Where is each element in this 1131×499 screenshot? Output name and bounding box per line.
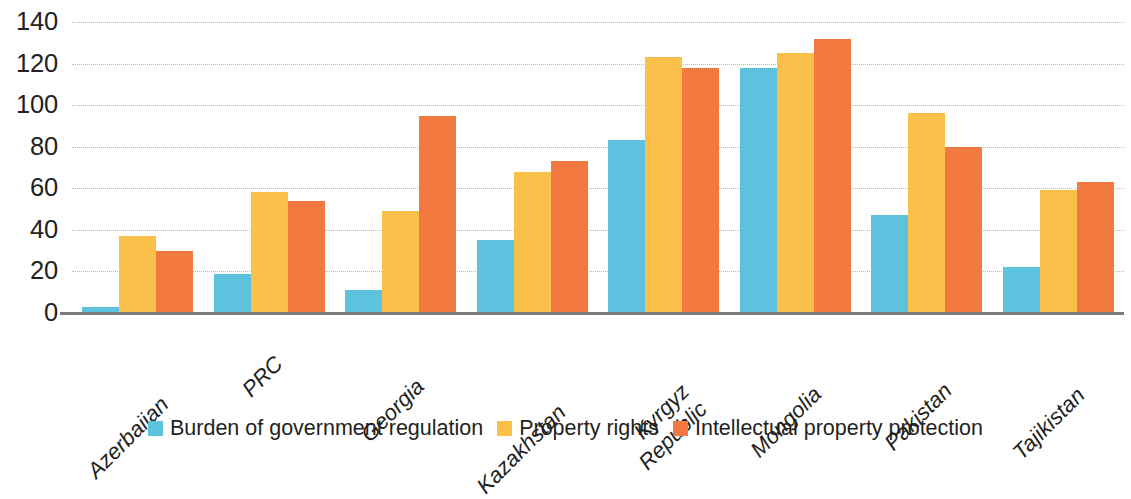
y-axis-tick-label: 20 <box>30 259 58 285</box>
legend-item[interactable]: Intellectual property protection <box>673 418 983 440</box>
bar <box>119 236 156 313</box>
bar-group <box>72 22 204 313</box>
bar <box>814 39 851 313</box>
y-axis-tick-label: 80 <box>30 134 58 160</box>
x-axis-label-cell: Kyrgyz Republic <box>598 313 730 413</box>
bar <box>419 116 456 313</box>
bar <box>251 192 288 313</box>
x-axis-label: Tajikistan <box>1073 319 1131 401</box>
y-axis: 020406080100120140 <box>0 0 66 340</box>
bar-group <box>730 22 862 313</box>
bar <box>908 113 945 313</box>
bar <box>608 140 645 313</box>
legend-item[interactable]: Burden of government regulation <box>148 418 483 440</box>
y-axis-tick-label: 140 <box>16 9 58 35</box>
bar <box>288 201 325 313</box>
bar <box>740 68 777 313</box>
legend-label: Intellectual property protection <box>695 418 983 440</box>
y-axis-tick-label: 100 <box>16 92 58 118</box>
x-axis-label-cell: Azerbaijan <box>72 313 204 413</box>
bar <box>345 290 382 313</box>
x-axis-label: PRC <box>271 319 321 369</box>
bar-group <box>598 22 730 313</box>
x-axis-label-cell: Georgia <box>335 313 467 413</box>
bar <box>514 172 551 313</box>
legend-label: Burden of government regulation <box>170 418 483 440</box>
x-axis-label-cell: Mongolia <box>730 313 862 413</box>
bar <box>382 211 419 313</box>
bar <box>1003 267 1040 313</box>
bar <box>1040 190 1077 313</box>
y-axis-tick-label: 40 <box>30 217 58 243</box>
bar-group <box>993 22 1125 313</box>
bar <box>156 251 193 313</box>
y-axis-tick-label: 60 <box>30 176 58 202</box>
x-axis-labels: AzerbaijanPRCGeorgiaKazakhstanKyrgyz Rep… <box>72 313 1124 413</box>
x-axis-label-cell: Tajikistan <box>993 313 1125 413</box>
legend-swatch-icon <box>148 421 163 436</box>
legend-swatch-icon <box>673 421 688 436</box>
legend-item[interactable]: Property rights <box>497 418 659 440</box>
bar-groups <box>72 22 1124 313</box>
x-axis-label-cell: Pakistan <box>861 313 993 413</box>
bar <box>777 53 814 313</box>
legend-label: Property rights <box>519 418 659 440</box>
bar <box>945 147 982 313</box>
bar <box>1077 182 1114 313</box>
legend: Burden of government regulationProperty … <box>0 418 1131 440</box>
bar <box>214 274 251 313</box>
bar <box>477 240 514 313</box>
legend-swatch-icon <box>497 421 512 436</box>
bar-group <box>335 22 467 313</box>
x-axis-label-cell: PRC <box>204 313 336 413</box>
bar-group <box>861 22 993 313</box>
bar <box>871 215 908 313</box>
bar-group <box>204 22 336 313</box>
bar <box>682 68 719 313</box>
y-axis-tick-label: 0 <box>44 300 58 326</box>
y-axis-tick-label: 120 <box>16 51 58 77</box>
bar <box>645 57 682 313</box>
bar <box>551 161 588 313</box>
x-axis-label-cell: Kazakhstan <box>467 313 599 413</box>
bar-group <box>467 22 599 313</box>
